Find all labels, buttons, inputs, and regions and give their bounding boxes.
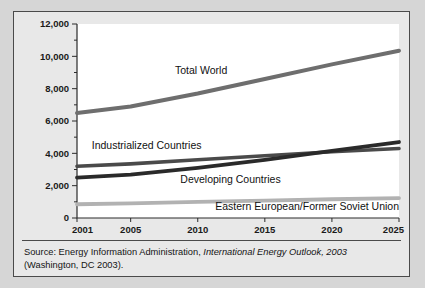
figure-container: 02,0004,0006,0008,00010,00012,0002001200…	[13, 11, 410, 277]
y-tick-label: 10,000	[40, 51, 69, 62]
series-label-eastern-european-former-soviet-union: Eastern European/Former Soviet Union	[215, 200, 399, 212]
x-tick-label: 2010	[187, 224, 208, 235]
line-chart: 02,0004,0006,0008,00010,00012,0002001200…	[14, 12, 411, 240]
figure-divider	[22, 240, 401, 241]
series-label-industrialized-countries: Industrialized Countries	[92, 139, 202, 151]
source-publication-title: International Energy Outlook, 2003	[203, 247, 347, 257]
y-tick-label: 0	[64, 212, 69, 223]
y-tick-label: 12,000	[40, 18, 69, 29]
series-label-total-world: Total World	[175, 64, 227, 76]
x-tick-label: 2025	[383, 224, 405, 235]
source-note: Source: Energy Information Administratio…	[24, 246, 399, 272]
y-tick-label: 8,000	[45, 83, 69, 94]
chart-plot-area: 02,0004,0006,0008,00010,00012,0002001200…	[14, 12, 409, 240]
source-suffix: (Washington, DC 2003).	[24, 260, 123, 270]
x-tick-label: 2020	[321, 224, 342, 235]
x-tick-label: 2005	[120, 224, 142, 235]
y-tick-label: 4,000	[45, 148, 69, 159]
plot-background	[77, 24, 399, 218]
series-label-developing-countries: Developing Countries	[180, 173, 280, 185]
y-tick-label: 6,000	[45, 115, 69, 126]
source-prefix: Source: Energy Information Administratio…	[24, 247, 203, 257]
x-tick-label: 2015	[254, 224, 276, 235]
x-tick-label: 2001	[72, 224, 94, 235]
y-tick-label: 2,000	[45, 180, 69, 191]
